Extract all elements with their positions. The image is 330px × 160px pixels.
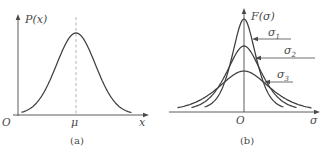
label-sigma-2: σ2 <box>284 44 297 59</box>
x-axis-label-a: x <box>139 116 146 129</box>
label-sigma-1: σ1 <box>268 26 280 41</box>
y-axis-label-b: F(σ) <box>250 10 275 23</box>
y-axis-arrow <box>16 14 21 20</box>
caption-b: (b) <box>240 135 254 146</box>
panel-a: P(x) O μ x (a) <box>0 0 165 160</box>
x-axis-label-b: σ <box>310 114 318 127</box>
panel-a-drawing <box>13 14 149 117</box>
caption-a: (a) <box>70 135 84 146</box>
curve-sigma-3 <box>178 71 311 108</box>
mean-label: μ <box>71 116 78 129</box>
origin-label-b: O <box>236 114 245 126</box>
y-axis-arrow <box>242 8 247 14</box>
panel-b-drawing <box>169 8 320 114</box>
curve-sigma-1-leader-arrow <box>252 37 258 42</box>
label-sigma-3: σ3 <box>277 68 290 83</box>
panel-b: F(σ) O σ (b) σ1 σ2 σ3 <box>165 0 330 160</box>
y-axis-label-a: P(x) <box>24 13 47 26</box>
origin-label-a: O <box>2 116 11 128</box>
distribution-figure: P(x) O μ x (a) F(σ) O σ (b) σ1 σ2 σ3 <box>0 0 330 160</box>
